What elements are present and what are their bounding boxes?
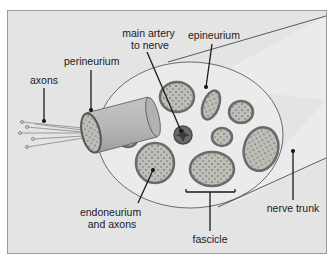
fascicle xyxy=(212,128,232,146)
label-endoneurium: endoneurium and axons xyxy=(80,206,144,230)
fascicle xyxy=(190,152,234,186)
nerve-structure-diagram: axons perineurium main artery to nerve e… xyxy=(0,0,333,260)
fascicle xyxy=(136,143,174,183)
label-fascicle: fascicle xyxy=(192,233,227,245)
main-artery xyxy=(174,126,192,144)
label-main-artery-line1: main artery xyxy=(122,27,175,39)
fascicle xyxy=(160,82,194,112)
label-epineurium: epineurium xyxy=(188,29,240,41)
fascicle xyxy=(229,101,253,123)
label-endoneurium-line1: endoneurium xyxy=(80,206,142,218)
label-nerve-trunk: nerve trunk xyxy=(267,202,320,214)
label-perineurium: perineurium xyxy=(64,55,120,67)
label-axons: axons xyxy=(30,74,58,86)
label-main-artery-line2: to nerve xyxy=(131,39,169,51)
label-endoneurium-line2: and axons xyxy=(88,218,136,230)
